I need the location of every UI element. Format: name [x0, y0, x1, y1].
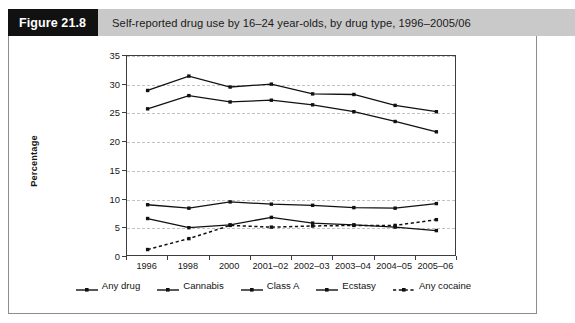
- y-tick-label: 25: [94, 107, 120, 118]
- legend-item-cannabis[interactable]: Cannabis: [157, 280, 224, 291]
- legend-label: Class A: [267, 280, 300, 291]
- series-line: [148, 220, 437, 250]
- legend-marker-icon: [76, 281, 98, 291]
- data-point-marker: [270, 82, 273, 85]
- series-layer: [127, 56, 457, 257]
- series-line: [148, 202, 437, 208]
- data-point-marker: [393, 206, 396, 209]
- data-point-marker: [435, 218, 438, 221]
- legend-marker-icon: [241, 281, 263, 291]
- series-class-a: [146, 200, 438, 210]
- data-point-marker: [352, 206, 355, 209]
- data-point-marker: [270, 202, 273, 205]
- y-tick-label: 20: [94, 136, 120, 147]
- y-tick-label: 30: [94, 78, 120, 89]
- data-point-marker: [311, 103, 314, 106]
- data-point-marker: [187, 206, 190, 209]
- data-point-marker: [393, 224, 396, 227]
- data-point-marker: [146, 217, 149, 220]
- data-point-marker: [435, 110, 438, 113]
- y-axis-title: Percentage: [29, 106, 39, 216]
- series-line: [148, 76, 437, 112]
- figure-number-badge: Figure 21.8: [8, 9, 98, 36]
- data-point-marker: [393, 120, 396, 123]
- data-point-marker: [435, 202, 438, 205]
- y-tick-label: 0: [94, 251, 120, 262]
- data-point-marker: [270, 99, 273, 102]
- legend-marker-icon: [393, 281, 415, 291]
- chart-legend: Any drugCannabisClass AEcstasyAny cocain…: [9, 280, 538, 291]
- data-point-marker: [435, 229, 438, 232]
- legend-item-ecstasy[interactable]: Ecstasy: [316, 280, 376, 291]
- figure-title: Self-reported drug use by 16–24 year-old…: [98, 9, 471, 36]
- y-tick-label: 5: [94, 222, 120, 233]
- data-point-marker: [187, 237, 190, 240]
- legend-marker-icon: [316, 281, 338, 291]
- series-line: [148, 96, 437, 132]
- y-tick-label: 10: [94, 193, 120, 204]
- line-chart: Percentage 05101520253035 19961998200020…: [9, 36, 538, 276]
- data-point-marker: [187, 226, 190, 229]
- data-point-marker: [270, 216, 273, 219]
- figure-header: Figure 21.8 Self-reported drug use by 16…: [8, 9, 575, 36]
- data-point-marker: [228, 224, 231, 227]
- data-point-marker: [352, 224, 355, 227]
- data-point-marker: [311, 224, 314, 227]
- legend-item-any-drug[interactable]: Any drug: [76, 280, 140, 291]
- data-point-marker: [187, 94, 190, 97]
- data-point-marker: [435, 130, 438, 133]
- legend-marker-icon: [157, 281, 179, 291]
- data-point-marker: [352, 93, 355, 96]
- legend-label: Any cocaine: [419, 280, 471, 291]
- data-point-marker: [270, 225, 273, 228]
- y-tick-label: 15: [94, 164, 120, 175]
- x-tick-label: 2005–06: [406, 261, 464, 271]
- data-point-marker: [146, 248, 149, 251]
- data-point-marker: [228, 200, 231, 203]
- data-point-marker: [393, 104, 396, 107]
- series-any-cocaine: [146, 218, 438, 251]
- data-point-marker: [352, 110, 355, 113]
- data-point-marker: [311, 92, 314, 95]
- plot-area: [126, 55, 456, 256]
- data-point-marker: [146, 203, 149, 206]
- data-point-marker: [146, 89, 149, 92]
- legend-item-any-cocaine[interactable]: Any cocaine: [393, 280, 471, 291]
- data-point-marker: [146, 107, 149, 110]
- data-point-marker: [228, 85, 231, 88]
- legend-label: Ecstasy: [342, 280, 376, 291]
- data-point-marker: [187, 74, 190, 77]
- y-tick-label: 35: [94, 50, 120, 61]
- series-line: [148, 217, 437, 230]
- figure-body-panel: Percentage 05101520253035 19961998200020…: [8, 36, 537, 314]
- data-point-marker: [228, 100, 231, 103]
- legend-label: Any drug: [102, 280, 140, 291]
- series-cannabis: [146, 94, 438, 134]
- legend-item-class-a[interactable]: Class A: [241, 280, 300, 291]
- series-any-drug: [146, 74, 438, 113]
- legend-label: Cannabis: [183, 280, 224, 291]
- data-point-marker: [311, 204, 314, 207]
